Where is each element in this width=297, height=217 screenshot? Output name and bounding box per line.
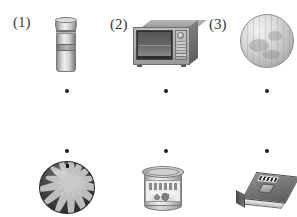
can-base-rim — [144, 205, 182, 211]
connector-dot-top-1[interactable] — [65, 89, 69, 93]
can-lid-inner-ring — [147, 168, 179, 176]
item-label-3: (3) — [209, 16, 227, 33]
globe-ball — [240, 14, 294, 68]
worksheet-page: (1) (2) (3) — [0, 0, 297, 217]
watermelon-image[interactable] — [39, 161, 95, 215]
connector-dot-bottom-3[interactable] — [265, 149, 269, 153]
can-label-text-lines — [149, 183, 177, 190]
can-paper-label — [146, 180, 180, 202]
book-image[interactable] — [236, 168, 294, 212]
bottle-cap-top — [55, 17, 77, 23]
can-label-artwork — [151, 192, 175, 201]
bottle-thermos-image[interactable] — [48, 14, 88, 76]
item-label-1: (1) — [13, 14, 31, 31]
microwave-foot-left — [137, 65, 142, 67]
bottle-label-band — [56, 44, 76, 51]
microwave-dial-knob — [177, 32, 184, 39]
microwave-buttons — [177, 41, 185, 52]
globe-sphere-image[interactable] — [240, 14, 294, 68]
microwave-door-handle — [175, 53, 187, 57]
item-label-2: (2) — [110, 16, 128, 33]
watermelon-body — [39, 161, 95, 214]
connector-dot-top-2[interactable] — [164, 89, 168, 93]
tin-can-image[interactable] — [140, 163, 188, 215]
microwave-foot-right — [181, 65, 186, 67]
microwave-door-window — [138, 32, 171, 56]
connector-dot-bottom-2[interactable] — [164, 149, 168, 153]
microwave-oven-image[interactable] — [133, 20, 201, 70]
connector-dot-top-3[interactable] — [265, 89, 269, 93]
connector-dot-bottom-1[interactable] — [65, 149, 69, 153]
globe-landmass-2 — [268, 31, 282, 41]
microwave-side-panel — [189, 20, 198, 65]
bottle-neck — [56, 31, 76, 34]
